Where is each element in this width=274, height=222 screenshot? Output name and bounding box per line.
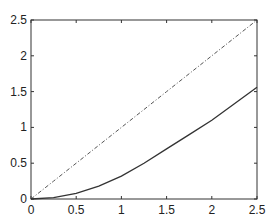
y-axis-tick-labels: 00.511.522.5 [10,13,27,206]
y-tick-label: 2 [20,49,27,63]
x-tick-label: 0.5 [68,203,85,217]
dashdot-line-series [31,20,257,199]
y-tick-label: 2.5 [10,13,27,27]
x-tick-label: 1.5 [158,203,175,217]
line-chart: 00.511.522.5 00.511.522.5 [0,0,274,222]
y-tick-label: 1 [20,120,27,134]
plot-area [31,20,257,199]
y-tick-label: 0 [20,192,27,206]
x-axis-tick-labels: 00.511.522.5 [28,203,266,217]
x-tick-label: 2 [208,203,215,217]
x-tick-label: 0 [28,203,35,217]
solid-curve-series [31,87,257,199]
y-tick-label: 1.5 [10,85,27,99]
x-tick-label: 1 [118,203,125,217]
y-tick-label: 0.5 [10,156,27,170]
x-tick-label: 2.5 [249,203,266,217]
